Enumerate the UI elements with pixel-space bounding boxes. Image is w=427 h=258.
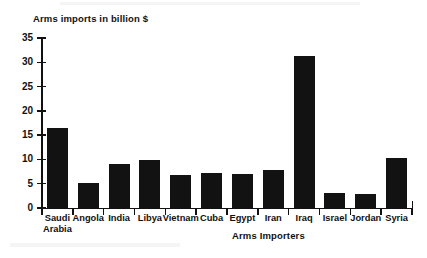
y-axis-title: Arms imports in billion $ — [33, 13, 148, 24]
bar-iran — [263, 170, 284, 208]
bar-syria — [386, 158, 407, 208]
bar-egypt — [232, 174, 253, 208]
bar-vietnam — [170, 175, 191, 208]
y-tick-label-wrap: 35 — [11, 33, 33, 43]
y-tick-label-15: 15 — [11, 130, 33, 140]
y-tick-label-30: 30 — [11, 57, 33, 67]
y-tick-label-wrap: 20 — [11, 106, 33, 116]
y-tick-label-wrap: 0 — [11, 203, 33, 213]
bar-libya — [139, 160, 160, 208]
plot-area — [42, 38, 412, 208]
y-tick-label-0: 0 — [11, 203, 33, 213]
x-category-label-syria: Syria — [364, 213, 427, 224]
y-tick-label-wrap: 5 — [11, 179, 33, 189]
y-tick-label-wrap: 10 — [11, 154, 33, 164]
y-tick-label-wrap: 25 — [11, 82, 33, 92]
bar-jordan — [355, 194, 376, 208]
y-tick-label-25: 25 — [11, 82, 33, 92]
arms-imports-bar-chart: Arms imports in billion $ 05101520253035… — [0, 0, 427, 258]
bar-india — [109, 164, 130, 208]
x-axis-title: Arms Importers — [232, 230, 305, 241]
bar-saudi-arabia — [47, 128, 68, 208]
y-tick-label-10: 10 — [11, 154, 33, 164]
scan-artifact-top — [60, 2, 360, 5]
y-tick-label-20: 20 — [11, 106, 33, 116]
bar-angola — [78, 183, 99, 208]
bar-israel — [324, 193, 345, 208]
y-tick-label-wrap: 15 — [11, 130, 33, 140]
y-tick-label-5: 5 — [11, 179, 33, 189]
scan-artifact-bottom — [10, 243, 180, 247]
bar-cuba — [201, 173, 222, 208]
bar-iraq — [294, 56, 315, 208]
y-tick-label-35: 35 — [11, 33, 33, 43]
y-tick-label-wrap: 30 — [11, 57, 33, 67]
